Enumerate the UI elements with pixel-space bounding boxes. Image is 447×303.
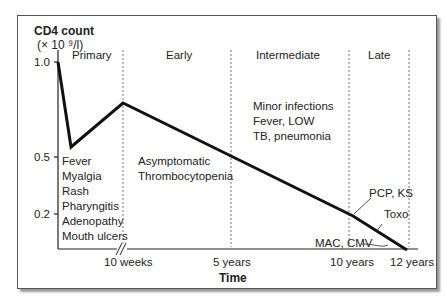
annotation-pcp-ks: PCP, KS bbox=[369, 186, 413, 201]
x-tick-10-years: 10 years bbox=[330, 255, 374, 270]
y-axis-title: CD4 count bbox=[34, 24, 94, 39]
symptom: Pharyngitis bbox=[62, 199, 119, 214]
symptom: Fever, LOW bbox=[253, 114, 314, 129]
symptom: Myalgia bbox=[62, 169, 102, 184]
phase-dividers bbox=[123, 50, 409, 247]
phase-intermediate: Intermediate bbox=[256, 48, 320, 63]
annotation-toxo: Toxo bbox=[384, 207, 408, 222]
symptom: Mouth ulcers bbox=[62, 229, 128, 244]
x-tick-10-weeks: 10 weeks bbox=[104, 255, 153, 270]
x-tick-5-years: 5 years bbox=[213, 255, 251, 270]
y-tick-1-0: 1.0 bbox=[20, 55, 50, 70]
y-tick-0-2: 0.2 bbox=[20, 207, 50, 222]
symptom: Rash bbox=[62, 184, 89, 199]
symptom: Thrombocytopenia bbox=[138, 169, 233, 184]
phase-late: Late bbox=[368, 48, 390, 63]
symptom: Fever bbox=[62, 154, 91, 169]
x-tick-12-years: 12 years bbox=[390, 255, 434, 270]
axis-break-icon bbox=[116, 243, 127, 255]
symptom: Adenopathy bbox=[62, 214, 123, 229]
symptom: Asymptomatic bbox=[138, 154, 210, 169]
annotation-mac-cmv: MAC, CMV bbox=[315, 236, 373, 251]
y-tick-0-5: 0.5 bbox=[20, 150, 50, 165]
x-axis-title: Time bbox=[219, 271, 247, 286]
symptom: Minor infections bbox=[253, 99, 334, 114]
phase-early: Early bbox=[166, 48, 192, 63]
symptom: TB, pneumonia bbox=[253, 129, 331, 144]
phase-primary: Primary bbox=[72, 48, 112, 63]
